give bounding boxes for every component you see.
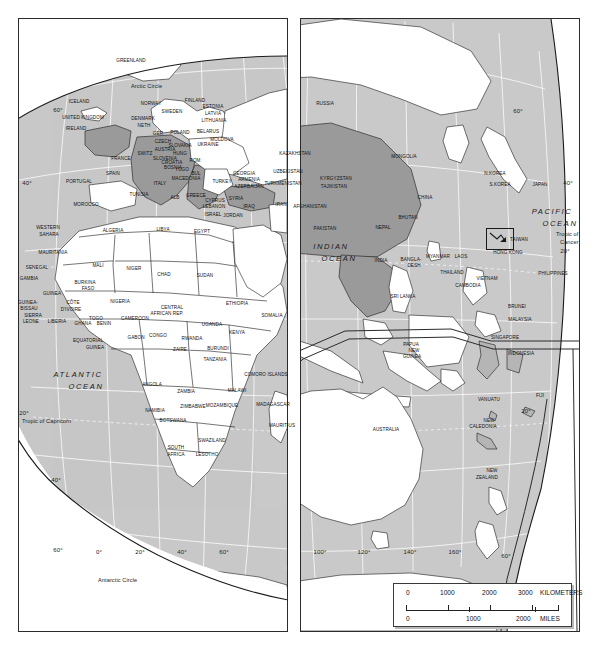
scale-mi-1000: 1000 bbox=[466, 615, 481, 622]
map-scale-bar[interactable]: 0 1000 2000 3000 KILOMETERS 0 1000 2000 … bbox=[393, 583, 572, 627]
inset-map-panel[interactable] bbox=[300, 18, 580, 632]
scale-mi-0: 0 bbox=[406, 615, 410, 622]
scale-km-3000: 3000 bbox=[518, 589, 533, 596]
scale-tick-3 bbox=[532, 605, 533, 610]
main-map-panel[interactable] bbox=[18, 18, 288, 632]
scale-tick-1 bbox=[448, 605, 449, 610]
scale-tick-2 bbox=[490, 605, 491, 610]
detail-highlight-box[interactable] bbox=[486, 228, 514, 250]
main-map-canvas bbox=[19, 19, 287, 631]
map-screenshot: 0 1000 2000 3000 KILOMETERS 0 1000 2000 … bbox=[0, 0, 598, 650]
highlight-box-arrow bbox=[487, 229, 511, 247]
scale-km-1000: 1000 bbox=[440, 589, 455, 596]
australia-oceania-svg bbox=[301, 19, 579, 631]
scale-km-2000: 2000 bbox=[482, 589, 497, 596]
scale-tick-mi-1 bbox=[469, 607, 470, 612]
scale-mi-unit: MILES bbox=[540, 615, 560, 622]
inset-map-canvas bbox=[301, 19, 579, 631]
scale-tick-bar bbox=[406, 605, 559, 611]
scale-km-unit: KILOMETERS bbox=[540, 589, 583, 596]
scale-mi-2000: 2000 bbox=[516, 615, 531, 622]
scale-tick-mi-2 bbox=[535, 607, 536, 612]
eastern-hemisphere-svg bbox=[19, 19, 287, 631]
scale-km-0: 0 bbox=[406, 589, 410, 596]
